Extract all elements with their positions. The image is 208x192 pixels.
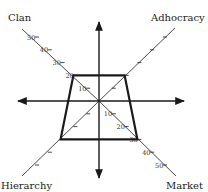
radar-chart: 10203040501020304050 Clan Adhocracy Mark… — [0, 0, 208, 192]
tick-label: 50 — [27, 34, 35, 42]
axis-label-adhocracy: Adhocracy — [150, 12, 205, 23]
tick-label: 40 — [40, 46, 48, 54]
tick-label: 40 — [142, 149, 150, 157]
tick-label: 50 — [155, 162, 163, 170]
tick-label: 30 — [53, 59, 61, 67]
tick-label: 10 — [104, 110, 112, 118]
axis-label-clan: Clan — [8, 12, 32, 23]
axis-label-market: Market — [166, 180, 203, 191]
tick-label: 20 — [117, 123, 125, 131]
axis-line-adhocracy — [99, 28, 175, 101]
tick-label: 10 — [78, 85, 86, 93]
axis-label-hierarchy: Hierarchy — [1, 180, 52, 191]
